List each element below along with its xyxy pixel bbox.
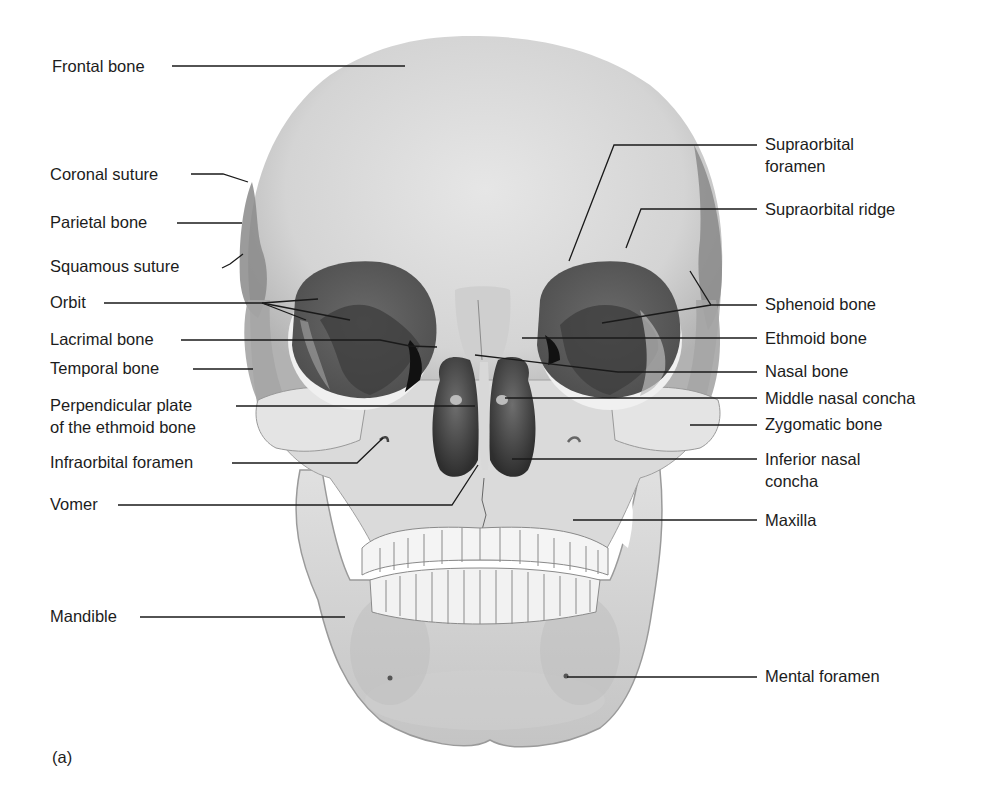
label-orbit: Orbit	[50, 292, 86, 313]
label-infraorbital-foramen: Infraorbital foramen	[50, 452, 193, 473]
label-parietal-bone: Parietal bone	[50, 212, 147, 233]
label-supraorbital-foramen-line2: foramen	[765, 156, 826, 177]
label-perpendicular-plate-line2: of the ethmoid bone	[50, 417, 196, 438]
label-coronal-suture: Coronal suture	[50, 164, 158, 185]
label-maxilla: Maxilla	[765, 510, 816, 531]
label-nasal-bone: Nasal bone	[765, 361, 848, 382]
leader-coronal-suture	[191, 174, 248, 182]
label-lacrimal-bone: Lacrimal bone	[50, 329, 154, 350]
label-supraorbital-ridge: Supraorbital ridge	[765, 199, 895, 220]
label-perpendicular-plate-line1: Perpendicular plate	[50, 395, 192, 416]
label-squamous-suture: Squamous suture	[50, 256, 179, 277]
label-sphenoid-bone: Sphenoid bone	[765, 294, 876, 315]
label-ethmoid-bone: Ethmoid bone	[765, 328, 867, 349]
label-zygomatic-bone: Zygomatic bone	[765, 414, 882, 435]
label-temporal-bone: Temporal bone	[50, 358, 159, 379]
label-supraorbital-foramen-line1: Supraorbital	[765, 134, 854, 155]
label-middle-nasal-concha: Middle nasal concha	[765, 388, 915, 409]
label-inferior-nasal-concha-line2: concha	[765, 471, 818, 492]
orbit-right	[537, 261, 682, 410]
skull-diagram: Frontal bone Coronal suture Parietal bon…	[0, 0, 995, 798]
label-inferior-nasal-concha-line1: Inferior nasal	[765, 449, 860, 470]
label-mandible: Mandible	[50, 606, 117, 627]
figure-tag: (a)	[52, 748, 72, 767]
label-frontal-bone: Frontal bone	[52, 56, 145, 77]
teeth	[362, 527, 608, 624]
label-vomer: Vomer	[50, 494, 98, 515]
label-mental-foramen: Mental foramen	[765, 666, 880, 687]
